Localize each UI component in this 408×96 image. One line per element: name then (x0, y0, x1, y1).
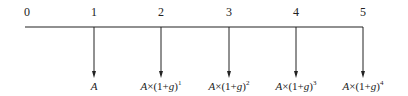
period-label-3: 3 (226, 5, 232, 19)
cash-flow-arrow-5 (361, 27, 365, 78)
period-label-2: 2 (158, 5, 164, 19)
cash-flow-label-2: A×(1+g)1 (140, 79, 182, 93)
period-label-1: 1 (91, 5, 97, 19)
cash-flow-diagram: 012345 AA×(1+g)1A×(1+g)2A×(1+g)3A×(1+g)4 (0, 0, 408, 96)
period-label-4: 4 (293, 5, 299, 19)
cash-flow-arrow-3 (227, 27, 231, 78)
cash-flow-arrow-1 (92, 27, 96, 78)
arrow-head (361, 71, 365, 78)
period-label-0: 0 (24, 5, 30, 19)
cash-flow-arrow-2 (159, 27, 163, 78)
cash-flow-arrow-4 (294, 27, 298, 78)
cash-flow-label-4: A×(1+g)3 (275, 79, 317, 93)
cash-flow-label-1: A (90, 80, 98, 92)
period-label-5: 5 (360, 5, 366, 19)
arrow-head (294, 71, 298, 78)
arrow-head (92, 71, 96, 78)
arrow-head (227, 71, 231, 78)
cash-flow-label-5: A×(1+g)4 (342, 79, 384, 93)
arrow-head (159, 71, 163, 78)
cash-flow-label-3: A×(1+g)2 (208, 79, 250, 93)
